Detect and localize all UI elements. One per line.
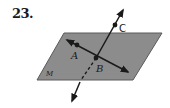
point-c-label: C <box>119 23 126 34</box>
line-bc-below-plane <box>72 82 80 101</box>
geometry-diagram: A B C M <box>0 0 170 108</box>
point-b <box>94 56 99 61</box>
plane-m-label: M <box>45 70 54 78</box>
point-a-label: A <box>70 50 78 61</box>
point-c <box>113 23 118 28</box>
point-b-label: B <box>95 63 103 74</box>
point-a <box>75 43 80 48</box>
